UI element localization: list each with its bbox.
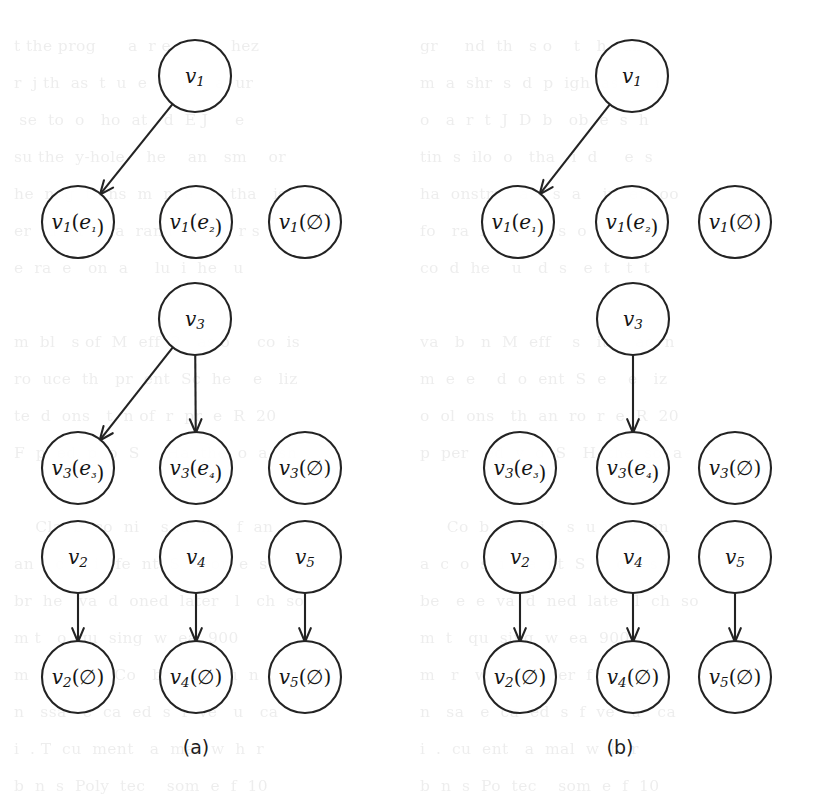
- edge-arrow: [100, 347, 174, 441]
- edge-arrow: [100, 103, 173, 194]
- captions-layer: (a)(b): [183, 736, 634, 758]
- edge-arrow: [627, 354, 639, 433]
- tree-node[interactable]: v3(∅): [269, 432, 341, 504]
- tree-node[interactable]: v1(e₁): [482, 186, 554, 258]
- tree-node[interactable]: v4: [160, 521, 232, 593]
- tree-node-label: v5(∅): [279, 665, 332, 690]
- tree-node[interactable]: v2(∅): [42, 641, 114, 713]
- edge-arrow: [540, 104, 611, 195]
- edge-arrow: [190, 592, 202, 642]
- tree-node-label: v3(∅): [279, 456, 332, 481]
- panel-caption: (a): [183, 736, 209, 758]
- tree-node-label: v2(∅): [52, 665, 105, 690]
- tree-node[interactable]: v1: [159, 40, 231, 112]
- edge-arrow: [72, 592, 84, 642]
- tree-node-label: v2(∅): [494, 665, 547, 690]
- panel-caption: (b): [607, 736, 634, 758]
- tree-node[interactable]: v3: [159, 283, 231, 355]
- tree-node[interactable]: v5(∅): [269, 641, 341, 713]
- tree-node[interactable]: v3(e₃): [42, 432, 114, 504]
- tree-node[interactable]: v4: [597, 521, 669, 593]
- tree-node[interactable]: v1(e₁): [42, 186, 114, 258]
- tree-node[interactable]: v4(∅): [160, 641, 232, 713]
- edge-arrow: [627, 592, 639, 642]
- tree-node[interactable]: v2(∅): [484, 641, 556, 713]
- edge-arrow: [190, 354, 202, 433]
- tree-node-label: v3(∅): [709, 456, 762, 481]
- edge-arrow: [299, 592, 311, 642]
- tree-node[interactable]: v1(∅): [699, 186, 771, 258]
- tree-node[interactable]: v2: [484, 521, 556, 593]
- edge-arrow: [514, 592, 526, 642]
- tree-node[interactable]: v3(e₄): [597, 432, 669, 504]
- tree-node[interactable]: v1(∅): [269, 186, 341, 258]
- tree-node[interactable]: v4(∅): [597, 641, 669, 713]
- tree-node[interactable]: v3(e₃): [484, 432, 556, 504]
- tree-node[interactable]: v3(∅): [699, 432, 771, 504]
- tree-node[interactable]: v3(e₄): [160, 432, 232, 504]
- tree-node[interactable]: v5: [269, 521, 341, 593]
- tree-node[interactable]: v3: [597, 283, 669, 355]
- tree-node[interactable]: v5(∅): [699, 641, 771, 713]
- figure-root: t the prog a r e t hez r j th as t u e t…: [0, 0, 820, 796]
- tree-node[interactable]: v2: [42, 521, 114, 593]
- tree-node-label: v1(∅): [279, 210, 332, 235]
- tree-node-label: v4(∅): [170, 665, 223, 690]
- search-tree-diagram: v1v1(e₁)v1(e₂)v1(∅)v3v3(e₃)v3(e₄)v3(∅)v2…: [0, 0, 820, 796]
- nodes-layer: v1v1(e₁)v1(e₂)v1(∅)v3v3(e₃)v3(e₄)v3(∅)v2…: [42, 40, 771, 713]
- tree-node-label: v1(∅): [709, 210, 762, 235]
- tree-node[interactable]: v1(e₂): [596, 186, 668, 258]
- tree-node[interactable]: v5: [699, 521, 771, 593]
- tree-node[interactable]: v1: [596, 40, 668, 112]
- edge-arrow: [729, 592, 741, 642]
- tree-node[interactable]: v1(e₂): [160, 186, 232, 258]
- tree-node-label: v5(∅): [709, 665, 762, 690]
- tree-node-label: v4(∅): [607, 665, 660, 690]
